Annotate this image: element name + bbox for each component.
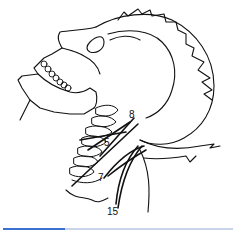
neck-cord xyxy=(140,140,220,148)
label-7: 7 xyxy=(98,173,104,183)
label-15: 15 xyxy=(107,207,118,217)
eye-socket xyxy=(87,37,104,53)
label-5: 5 xyxy=(104,138,110,148)
progress-bar-fill xyxy=(3,228,65,230)
progress-bar xyxy=(3,228,233,230)
mandible xyxy=(38,74,97,108)
label-8: 8 xyxy=(129,110,135,120)
muscle-lines xyxy=(72,118,146,208)
skull-neck-illustration xyxy=(0,0,236,222)
cranium-outline xyxy=(96,14,214,144)
hair xyxy=(118,9,212,100)
anatomical-diagram xyxy=(0,0,236,222)
